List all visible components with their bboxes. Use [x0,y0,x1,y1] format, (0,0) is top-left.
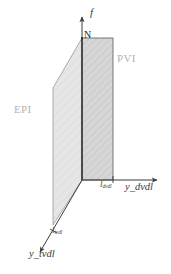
pvi-plane-surface [82,38,113,180]
tick-label-l-dvdl-subscript: dvdl [103,183,112,189]
axis-label-y-tvdl-base: y_ [29,248,39,259]
point-N-marker [81,37,83,39]
figure-canvas: f N PVI EPI ldvdl y_dvdl ltvdl y_tvdl [0,0,171,274]
plane-label-pvi: PVI [117,53,136,64]
tick-label-l-tvdl: ltvdl [52,226,62,236]
axis-label-y-tvdl: y_tvdl [29,249,55,260]
plane-pvi [82,38,113,180]
tick-label-l-tvdl-subscript: tvdl [55,229,63,235]
axis-label-y-tvdl-subscript: tvdl [39,248,55,259]
tick-label-l-dvdl: ldvdl [100,180,111,190]
axis-label-y-dvdl: y_dvdl [125,182,153,193]
axis-label-f: f [90,7,93,18]
plane-epi [53,38,82,225]
axis-label-y-dvdl-subscript: dvdl [135,181,153,192]
diagram-svg [0,0,171,274]
plane-label-epi: EPI [14,104,31,115]
axis-label-y-dvdl-base: y_ [125,181,135,192]
epi-plane-surface [53,38,82,225]
point-label-N: N [84,30,91,40]
